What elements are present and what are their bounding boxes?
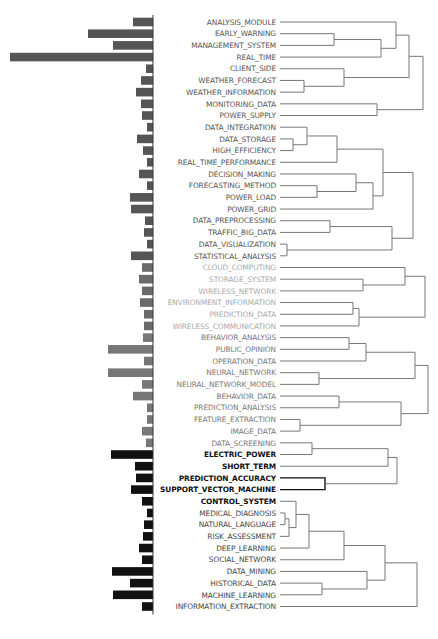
leaf-label: EARLY_WARNING (215, 29, 276, 38)
bar (142, 555, 153, 564)
tree-branch (280, 571, 367, 589)
leaf-label: PUBLIC_OPINION (216, 345, 276, 354)
bar (146, 439, 153, 448)
bar (147, 240, 153, 249)
leaf-label: REAL_TIME (236, 53, 276, 62)
bar (131, 252, 153, 261)
leaf-label: PREDICTION_ANALYSIS (194, 403, 276, 412)
bar-chart (10, 18, 153, 611)
tree-branch (280, 40, 381, 58)
leaf-label: BEHAVIOR_ANALYSIS (201, 333, 276, 342)
bar (108, 368, 153, 377)
bar (133, 392, 153, 401)
bar (139, 170, 153, 179)
leaf-label: IMAGE_DATA (230, 427, 276, 436)
leaf-label: WEATHER_FORECAST (198, 76, 276, 85)
bar (139, 275, 153, 284)
bar (147, 509, 153, 518)
leaf-label: PREDICTION_DATA (209, 310, 276, 319)
leaf-label: DATA_INTEGRATION (205, 123, 276, 132)
tree-branch (280, 563, 417, 607)
tree-branch (280, 139, 293, 151)
leaf-label: MONITORING_DATA (206, 100, 276, 109)
bar (146, 64, 153, 73)
leaf-label: CLIENT_SIDE (230, 64, 276, 73)
bar (143, 333, 153, 342)
bar (142, 602, 153, 611)
tree-branch (280, 22, 396, 48)
bar (130, 193, 153, 202)
bar (111, 450, 153, 459)
tree-branch (280, 183, 373, 209)
leaf-label: DECISION_MAKING (208, 170, 276, 179)
tree-branch (300, 402, 401, 425)
tree-branch (280, 531, 344, 559)
tree-branch (377, 56, 423, 109)
tree-branch (280, 513, 285, 525)
tree-branch (344, 545, 385, 580)
leaf-label: CLOUD_COMPUTING (203, 263, 277, 272)
tree-branch (280, 136, 337, 162)
leaf-label: SHORT_TERM (222, 462, 276, 471)
bar (147, 403, 153, 412)
tree-branch (383, 173, 413, 239)
tree-branch (280, 501, 296, 527)
leaf-label: RISK_ASSESSMENT (207, 532, 276, 541)
leaf-labels: ANALYSIS_MODULEEARLY_WARNINGMANAGEMENT_S… (160, 18, 277, 612)
leaf-label: NEURAL_NETWORK_MODEL (177, 380, 277, 389)
tree-branch (280, 478, 325, 490)
leaf-label: WIRELESS_NETWORK (199, 287, 277, 296)
bar (136, 474, 153, 483)
bar (142, 263, 153, 272)
tree-branch (280, 449, 388, 467)
tree-branch (280, 419, 300, 431)
bar (142, 427, 153, 436)
tree-branch (280, 221, 330, 233)
bar (137, 135, 153, 144)
leaf-label: DATA_SCREENING (211, 439, 276, 448)
bar (143, 532, 153, 541)
leaf-label: POWER_GRID (227, 205, 276, 214)
bar (133, 18, 153, 27)
bar (144, 322, 153, 331)
leaf-label: ENVIRONMENT_INFORMATION (168, 298, 276, 307)
bar (108, 345, 153, 354)
tree-branch (337, 149, 383, 196)
bar (10, 53, 153, 62)
leaf-label: TRAFFIC_BIG_DATA (207, 228, 276, 237)
leaf-label: STORAGE_SYSTEM (209, 275, 276, 284)
dendrogram-figure: ANALYSIS_MODULEEARLY_WARNINGMANAGEMENT_S… (0, 0, 438, 639)
leaf-label: OPERATION_DATA (212, 357, 276, 366)
bar (144, 357, 153, 366)
leaf-label: WIRELESS_COMMUNICATION (173, 322, 277, 331)
leaf-label: BEHAVIOR_DATA (216, 392, 276, 401)
leaf-label: STATISTICAL_ANALYSIS (194, 252, 276, 261)
tree-branch (280, 396, 339, 408)
bar (113, 41, 153, 50)
bar (147, 415, 153, 424)
bar (88, 29, 153, 38)
bar (136, 88, 153, 97)
bar (130, 579, 153, 588)
leaf-label: MANAGEMENT_SYSTEM (191, 41, 276, 50)
leaf-label: PREDICTION_ACCURACY (179, 474, 277, 483)
tree-branch (280, 174, 356, 192)
bar (147, 123, 153, 132)
leaf-label: DATA_VISUALIZATION (199, 240, 276, 249)
bar (142, 497, 153, 506)
leaf-label: CONTROL_SYSTEM (201, 497, 276, 506)
leaf-label: INFORMATION_EXTRACTION (176, 602, 276, 611)
tree-branch (287, 227, 392, 250)
bar (147, 181, 153, 190)
tree-branch (280, 279, 363, 291)
bar (131, 205, 153, 214)
bar (143, 146, 153, 155)
leaf-label: ANALYSIS_MODULE (207, 18, 277, 27)
leaf-label: FEATURE_EXTRACTION (194, 415, 276, 424)
leaf-label: DATA_PREPROCESSING (193, 216, 277, 225)
tree-branch (280, 343, 366, 361)
bar (142, 111, 153, 120)
bar (147, 158, 153, 167)
leaf-label: SUPPORT_VECTOR_MACHINE (160, 485, 276, 494)
bar (139, 544, 153, 553)
